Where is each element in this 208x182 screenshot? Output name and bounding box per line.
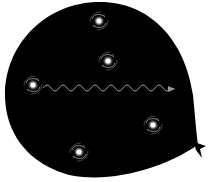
balloon-universe-diagram	[0, 0, 208, 182]
diagram-canvas	[0, 0, 208, 182]
balloon-knot-icon	[194, 142, 206, 158]
